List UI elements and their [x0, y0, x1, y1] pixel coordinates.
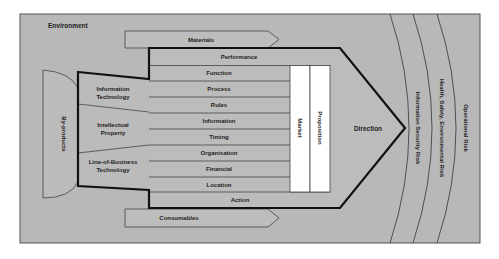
row-process: Process [207, 86, 231, 92]
direction-label: Direction [354, 125, 382, 132]
left-block-3-line2: Technology [96, 167, 130, 173]
market-label: Market [297, 118, 303, 137]
row-function: Function [206, 70, 232, 76]
left-block-3-line1: Line-of-Business [89, 159, 138, 165]
row-rules: Rules [211, 102, 228, 108]
left-block-2-line1: Intellectual [97, 122, 129, 128]
risk-label-information-security: Information Security Risk [415, 92, 421, 165]
left-block-1-line1: Information [97, 86, 130, 92]
proposition-label: Proposition [317, 111, 323, 145]
row-location: Location [207, 182, 232, 188]
left-block-1-line2: Technology [96, 94, 130, 100]
risk-label-hse: Health, Safety, Environmental Risk [439, 79, 445, 178]
row-organisation: Organisation [200, 150, 237, 156]
environment-label: Environment [48, 22, 89, 29]
consumables-arrow [125, 209, 279, 227]
row-financial: Financial [206, 166, 232, 172]
row-performance: Performance [221, 54, 258, 60]
byproducts-shape [43, 70, 78, 198]
left-block-2-line2: Property [101, 130, 126, 136]
row-timing: Timing [209, 134, 229, 140]
consumables-label: Consumables [159, 215, 199, 221]
row-information: Information [203, 118, 236, 124]
byproducts-label: By-products [61, 116, 67, 152]
row-action: Action [231, 197, 250, 203]
business-model-diagram: Environment Information Security Risk He… [0, 0, 499, 259]
materials-label: Materials [188, 37, 215, 43]
risk-label-operational: Operational Risk [463, 104, 469, 152]
